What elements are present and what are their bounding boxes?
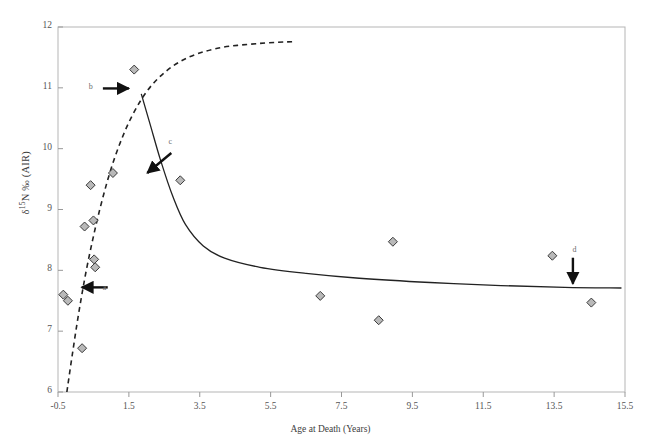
- x-tick-label: 11.5: [463, 401, 503, 411]
- annotation-label-b: b: [89, 82, 93, 91]
- y-tick-label: 7: [26, 324, 52, 334]
- x-tick-label: 7.5: [322, 401, 362, 411]
- y-tick-label: 6: [26, 385, 52, 395]
- y-tick-label: 8: [26, 263, 52, 273]
- x-tick-label: 9.5: [392, 401, 432, 411]
- y-tick-label: 10: [26, 142, 52, 152]
- y-axis-title: δ15N ‰ (AIR): [17, 113, 31, 253]
- x-tick-label: 1.5: [109, 401, 149, 411]
- x-tick-label: 13.5: [534, 401, 574, 411]
- annotation-label-d: d: [572, 245, 576, 254]
- scatter-plot-canvas: [0, 0, 661, 444]
- annotation-label-a: a: [103, 283, 107, 292]
- x-axis-ticks: [58, 392, 625, 397]
- x-tick-label: 3.5: [180, 401, 220, 411]
- y-tick-label: 11: [26, 81, 52, 91]
- annotation-label-c: c: [168, 137, 172, 146]
- x-axis-title: Age at Death (Years): [0, 424, 661, 434]
- x-tick-label: -0.5: [38, 401, 78, 411]
- x-tick-label: 15.5: [605, 401, 645, 411]
- x-tick-label: 5.5: [251, 401, 291, 411]
- y-tick-label: 12: [26, 20, 52, 30]
- plot-frame: [58, 27, 625, 392]
- chart-figure: δ15N ‰ (AIR) Age at Death (Years) 678910…: [0, 0, 661, 444]
- y-tick-label: 9: [26, 203, 52, 213]
